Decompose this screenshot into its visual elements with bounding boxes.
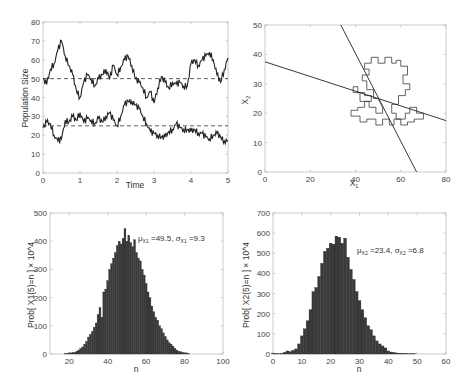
x-tick-label: 0 bbox=[263, 175, 268, 184]
histogram-bar bbox=[298, 344, 301, 354]
histogram-bar bbox=[162, 333, 164, 354]
y-tick-label: 50 bbox=[31, 75, 40, 84]
histogram-bar bbox=[295, 349, 298, 354]
x-tick-label: 20 bbox=[306, 175, 315, 184]
histogram-bar bbox=[109, 269, 111, 354]
histogram-bar bbox=[315, 288, 318, 354]
x-tick-label: 4 bbox=[189, 176, 194, 185]
histogram-bar bbox=[170, 344, 172, 354]
histogram-bar bbox=[335, 236, 338, 354]
histogram-bar bbox=[375, 341, 378, 354]
histogram-bar bbox=[338, 237, 341, 354]
x-axis-label: Time bbox=[126, 180, 145, 190]
histogram-bar bbox=[387, 351, 390, 354]
trajectory-line bbox=[43, 40, 228, 103]
panel-histogram-x2: 01020304050600100200300400500600700nProb… bbox=[241, 209, 451, 374]
y-tick-label: 0 bbox=[43, 350, 48, 359]
y-tick-label: 40 bbox=[31, 94, 40, 103]
panel-population-timeseries: 01234501020304050607080TimePopulation Si… bbox=[20, 18, 231, 190]
y-tick-label: 10 bbox=[253, 139, 262, 148]
histogram-bar bbox=[145, 284, 147, 355]
histogram-bar bbox=[153, 312, 155, 354]
nullcline-line bbox=[341, 25, 417, 172]
histogram-bar bbox=[99, 307, 101, 354]
axes-frame bbox=[265, 25, 446, 172]
y-tick-label: 30 bbox=[253, 80, 262, 89]
histogram-bar bbox=[318, 276, 321, 354]
histogram-bar bbox=[378, 344, 381, 354]
histogram-bar bbox=[118, 241, 120, 354]
x-tick-label: 60 bbox=[396, 175, 405, 184]
y-tick-label: 50 bbox=[253, 21, 262, 30]
histogram-bar bbox=[286, 351, 289, 354]
histogram-bar bbox=[134, 240, 136, 354]
histogram-bar bbox=[396, 353, 399, 354]
histogram-bar bbox=[164, 337, 166, 354]
histogram-bar bbox=[168, 343, 170, 354]
histogram-bar bbox=[300, 336, 303, 354]
x-tick-label: 20 bbox=[65, 357, 74, 366]
histogram-bar bbox=[370, 330, 373, 354]
x-tick-label: 3 bbox=[152, 176, 157, 185]
y-tick-label: 20 bbox=[31, 131, 40, 140]
histogram-bar bbox=[86, 341, 88, 354]
histogram-bar bbox=[72, 352, 76, 354]
histogram-bar bbox=[178, 351, 180, 354]
y-tick-label: 60 bbox=[31, 56, 40, 65]
histogram-bar bbox=[130, 243, 132, 354]
histogram-bar bbox=[136, 252, 138, 354]
x-tick-label: 50 bbox=[413, 357, 422, 366]
histogram-bar bbox=[172, 346, 174, 354]
histogram-bar bbox=[161, 329, 163, 354]
histogram-bar bbox=[95, 323, 97, 354]
histogram-bar bbox=[128, 236, 130, 354]
x-tick-label: 5 bbox=[226, 176, 231, 185]
histogram-bar bbox=[97, 315, 99, 354]
figure: 01234501020304050607080TimePopulation Si… bbox=[0, 0, 472, 390]
histogram-bar bbox=[332, 244, 335, 354]
histogram-bar bbox=[124, 229, 126, 354]
x-axis-label: n bbox=[134, 364, 139, 374]
histogram-bar bbox=[344, 238, 347, 354]
stats-annotation: μX2 =23.4, σX2 =6.8 bbox=[357, 246, 424, 256]
y-tick-label: 200 bbox=[257, 310, 271, 319]
histogram-bar bbox=[381, 346, 384, 354]
y-tick-label: 500 bbox=[34, 209, 48, 218]
y-tick-label: 40 bbox=[253, 50, 262, 59]
y-tick-label: 400 bbox=[257, 269, 271, 278]
histogram-bar bbox=[349, 269, 352, 354]
histogram-bar bbox=[390, 352, 393, 354]
histogram-bar bbox=[78, 350, 80, 354]
histogram-bar bbox=[187, 353, 189, 354]
histogram-bar bbox=[114, 252, 116, 354]
histogram-bar bbox=[64, 353, 68, 354]
histogram-bar bbox=[355, 292, 358, 354]
y-axis-label: Prob[ X2(5)=n ] × 10^4 bbox=[241, 242, 251, 328]
histogram-bar bbox=[303, 329, 306, 354]
y-tick-label: 500 bbox=[257, 249, 271, 258]
histogram-bar bbox=[180, 352, 182, 354]
histogram-bar bbox=[384, 348, 387, 354]
histogram-bar bbox=[101, 317, 103, 354]
histogram-bar bbox=[89, 334, 91, 354]
x-tick-label: 0 bbox=[41, 176, 46, 185]
histogram-bar bbox=[76, 351, 78, 354]
y-tick-label: 30 bbox=[31, 112, 40, 121]
x-tick-label: 1 bbox=[78, 176, 83, 185]
x-tick-label: 10 bbox=[297, 357, 306, 366]
histogram-bar bbox=[84, 344, 86, 354]
histogram-bar bbox=[393, 352, 396, 354]
histogram-bar bbox=[120, 244, 122, 354]
x-axis-label: n bbox=[357, 364, 362, 374]
y-tick-label: 0 bbox=[36, 169, 41, 178]
panel-histogram-x1: 204060801000100200300400500nProb[ X1(5)=… bbox=[26, 209, 230, 374]
stats-annotation: μX1 =49.5, σX1 =9.3 bbox=[138, 234, 205, 244]
x-tick-label: 40 bbox=[103, 357, 112, 366]
histogram-bar bbox=[292, 350, 295, 354]
nullcline-line bbox=[265, 62, 446, 121]
y-tick-label: 0 bbox=[258, 168, 263, 177]
histogram-bar bbox=[283, 352, 286, 354]
x-tick-label: 80 bbox=[180, 357, 189, 366]
y-tick-label: 80 bbox=[31, 18, 40, 27]
histogram-bar bbox=[122, 238, 124, 354]
